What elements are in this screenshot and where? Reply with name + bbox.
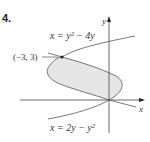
curve-top-left [48, 53, 62, 57]
point-marker [60, 55, 63, 58]
shaded-region [47, 57, 122, 100]
region-figure: y x x = y² − 4y x = 2y − y² (−3, 3) [0, 0, 150, 142]
x-axis-arrow [139, 98, 145, 102]
curve-bottom [48, 100, 109, 119]
curve-bottom-right [109, 100, 136, 107]
curve-top-label: x = y² − 4y [49, 30, 95, 41]
point-label: (−3, 3) [13, 52, 38, 62]
y-axis-label: y [101, 16, 106, 26]
curve-bottom-label: x = 2y − y² [49, 122, 96, 133]
y-axis-arrow [107, 16, 111, 22]
x-axis-label: x [138, 104, 143, 114]
